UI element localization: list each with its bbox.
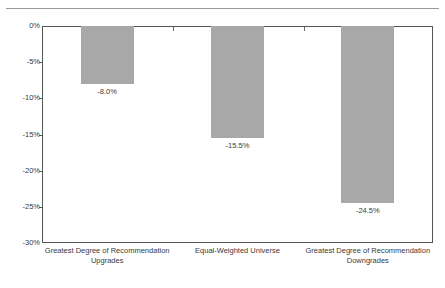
category-label: Greatest Degree of RecommendationUpgrade… <box>42 246 172 266</box>
y-axis-tick-label: -15% <box>2 131 40 139</box>
bar-value-label: -15.5% <box>208 141 268 150</box>
category-label-line: Equal-Weighted Universe <box>172 246 302 256</box>
bar-value-label: -24.5% <box>338 206 398 215</box>
x-axis-tick-mark <box>173 27 174 31</box>
x-axis-tick-mark <box>304 27 305 31</box>
category-label-line: Downgrades <box>303 256 433 266</box>
y-axis-tick-labels: 0%-5%-10%-15%-20%-25%-30% <box>0 26 40 243</box>
y-axis-tick-label: 0% <box>2 22 40 30</box>
y-axis-tick-label: -10% <box>2 94 40 102</box>
y-axis-tick-label: -25% <box>2 203 40 211</box>
category-label-line: Upgrades <box>42 256 172 266</box>
category-label: Greatest Degree of RecommendationDowngra… <box>303 246 433 266</box>
top-divider-rule <box>6 8 439 9</box>
y-axis-tick-label: -20% <box>2 167 40 175</box>
y-axis-tick-label: -5% <box>2 58 40 66</box>
bar <box>211 26 264 138</box>
bar-value-label: -8.0% <box>77 87 137 96</box>
bar <box>81 26 134 84</box>
y-axis-tick-label: -30% <box>2 239 40 247</box>
bar <box>341 26 394 203</box>
category-label-line: Greatest Degree of Recommendation <box>42 246 172 256</box>
category-axis-labels: Greatest Degree of RecommendationUpgrade… <box>42 246 433 286</box>
category-label-line: Greatest Degree of Recommendation <box>303 246 433 256</box>
bar-chart-figure: 0%-5%-10%-15%-20%-25%-30% -8.0%-15.5%-24… <box>0 0 445 288</box>
category-label: Equal-Weighted Universe <box>172 246 302 256</box>
